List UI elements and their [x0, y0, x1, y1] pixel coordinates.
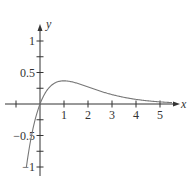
x-tick-label: 3 [109, 108, 115, 122]
y-axis-label: y [45, 17, 52, 31]
x-tick-label: 4 [133, 108, 139, 122]
y-tick-label: 1 [29, 34, 35, 48]
y-tick-label: 0.5 [20, 66, 35, 80]
x-tick-label: 2 [85, 108, 91, 122]
x-tick-label: 5 [157, 108, 163, 122]
x-axis-label: x [180, 97, 187, 111]
x-tick-label: 1 [61, 108, 67, 122]
function-plot: 1234510.5−0.5−1 x y [0, 0, 191, 184]
y-tick-label: −1 [22, 160, 35, 174]
y-axis-arrow-icon [38, 24, 43, 31]
curve-x-exp-neg-x [26, 81, 172, 168]
x-axis-arrow-icon [173, 102, 180, 107]
